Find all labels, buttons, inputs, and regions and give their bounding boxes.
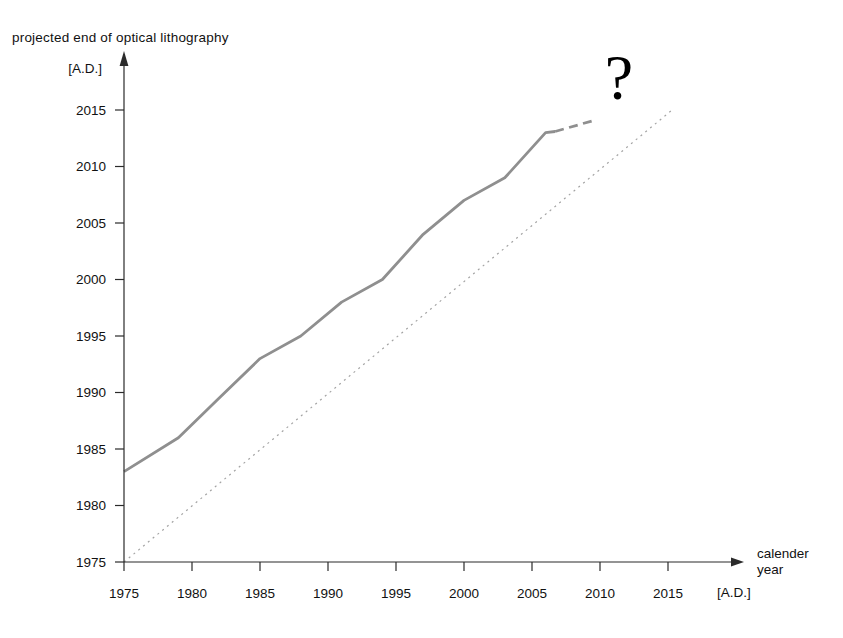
x-tick-label-1985: 1985 xyxy=(245,586,275,601)
series-dashed-line xyxy=(555,120,595,131)
x-tick-label-2005: 2005 xyxy=(517,586,547,601)
y-tick-label-2005: 2005 xyxy=(76,216,106,231)
y-tick-label-2015: 2015 xyxy=(76,103,106,118)
y-tick-label-1975: 1975 xyxy=(76,555,106,570)
series-dotted-line xyxy=(124,109,673,562)
x-tick-label-1980: 1980 xyxy=(177,586,207,601)
x-tick-label-2010: 2010 xyxy=(585,586,615,601)
x-tick-label-2000: 2000 xyxy=(449,586,479,601)
y-tick-label-1980: 1980 xyxy=(76,498,106,513)
x-tick-label-1995: 1995 xyxy=(381,586,411,601)
chart-canvas: 1975198019851990199520002005201020151975… xyxy=(0,0,843,638)
y-tick-label-2000: 2000 xyxy=(76,272,106,287)
chart-figure: projected end of optical lithography [A.… xyxy=(0,0,843,638)
y-tick-label-1990: 1990 xyxy=(76,385,106,400)
y-tick-label-1985: 1985 xyxy=(76,442,106,457)
y-tick-label-1995: 1995 xyxy=(76,329,106,344)
x-tick-label-2015: 2015 xyxy=(653,586,683,601)
y-axis-arrowhead xyxy=(120,51,129,66)
y-tick-label-2010: 2010 xyxy=(76,159,106,174)
x-tick-label-1975: 1975 xyxy=(109,586,139,601)
x-tick-label-1990: 1990 xyxy=(313,586,343,601)
series-solid-line xyxy=(124,132,555,472)
x-axis-arrowhead xyxy=(731,558,744,567)
